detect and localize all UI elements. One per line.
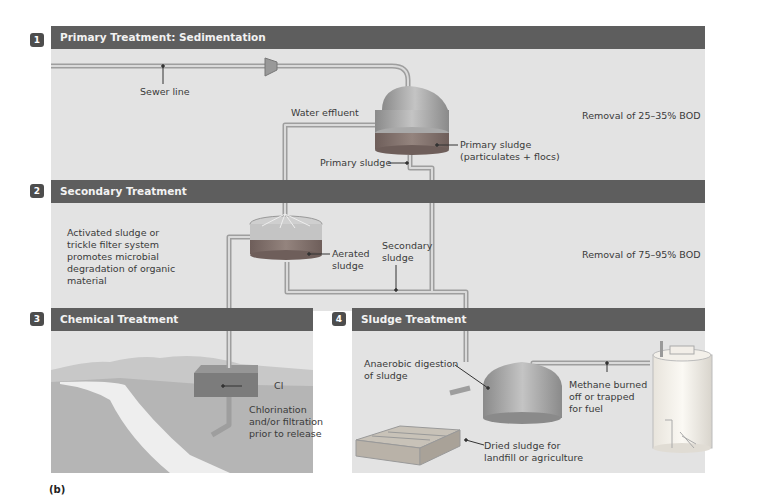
methane-storage-silo — [653, 341, 712, 453]
secondary-description: Activated sludge or trickle filter syste… — [67, 227, 175, 287]
secondary-sludge-label: Secondary sludge — [382, 240, 432, 264]
primary-sludge-tank-label: Primary sludge (particulates + flocs) — [460, 139, 560, 163]
anaerobic-digestion-label: Anaerobic digestion of sludge — [364, 358, 458, 382]
water-effluent-pipe — [285, 125, 380, 218]
dried-sludge-label: Dried sludge for landfill or agriculture — [484, 440, 583, 464]
figure-label: (b) — [49, 484, 65, 495]
step-badge-3: 3 — [30, 312, 44, 326]
step-badge-2: 2 — [30, 184, 44, 198]
chlorination-label: Chlorination and/or filtration prior to … — [249, 404, 323, 440]
cl-label: Cl — [274, 380, 283, 392]
primary-sludge-pipe — [410, 155, 432, 292]
step-badge-1: 1 — [30, 33, 44, 47]
methane-label: Methane burned off or trapped for fuel — [569, 379, 647, 415]
chemical-treatment-header: Chemical Treatment — [51, 308, 313, 331]
aeration-tank — [250, 214, 322, 260]
primary-treatment-header: Primary Treatment: Sedimentation — [51, 26, 705, 49]
dried-sludge-pipe — [450, 388, 470, 393]
aerated-sludge-label: Aerated sludge — [332, 248, 370, 272]
primary-sludge-pipe-label: Primary sludge — [320, 157, 391, 169]
water-effluent-label: Water effluent — [291, 107, 359, 119]
primary-removal-note: Removal of 25–35% BOD — [582, 110, 700, 122]
sewer-line-pipe — [51, 66, 408, 96]
secondary-removal-note: Removal of 75–95% BOD — [582, 249, 700, 261]
sludge-treatment-header: Sludge Treatment — [352, 308, 705, 331]
sewer-line-label: Sewer line — [140, 86, 190, 98]
anaerobic-digester — [483, 362, 562, 424]
sewer-valve — [265, 58, 277, 76]
step-badge-4: 4 — [332, 312, 346, 326]
sludge-drying-bed — [356, 426, 460, 465]
secondary-treatment-header: Secondary Treatment — [51, 180, 705, 203]
